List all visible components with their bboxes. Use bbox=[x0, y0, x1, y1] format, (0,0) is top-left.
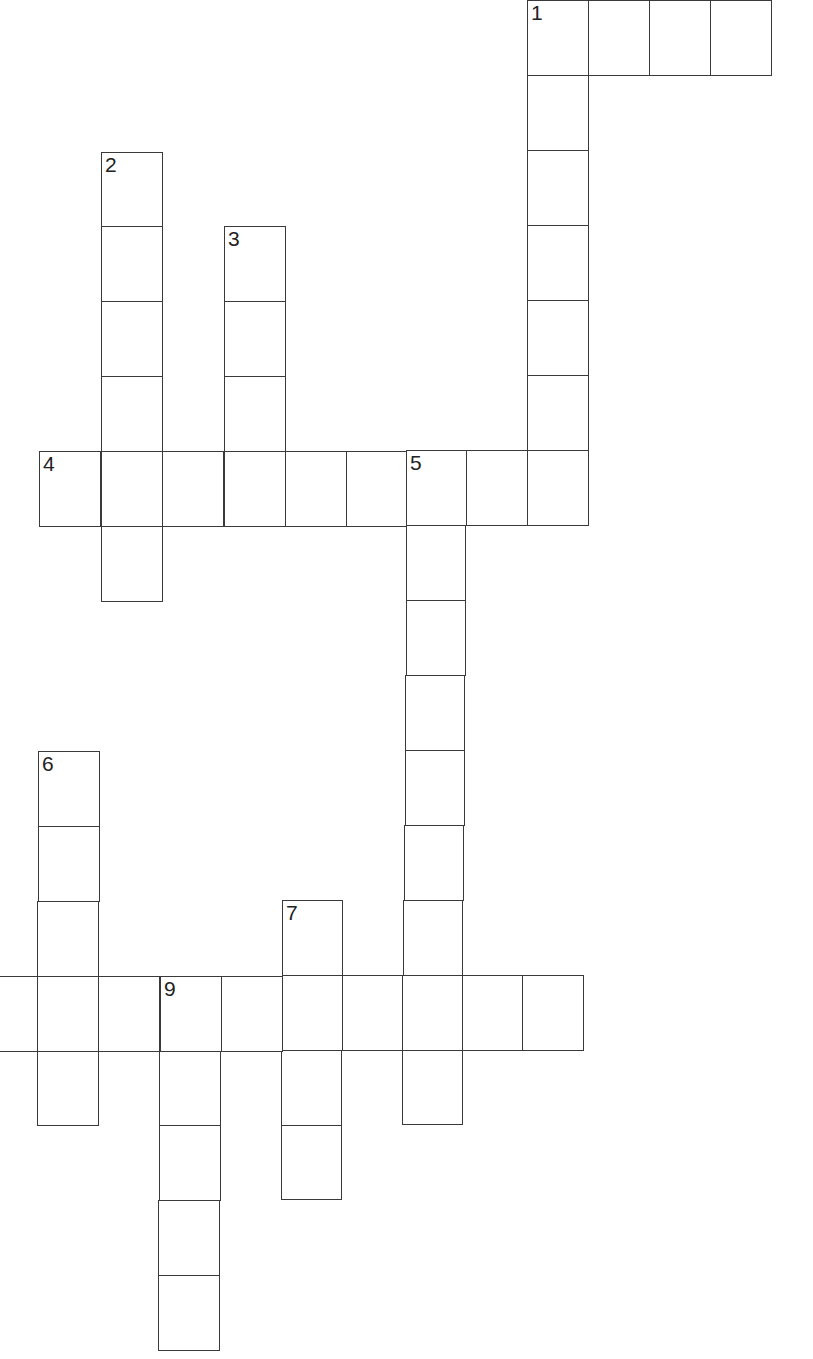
crossword-cell[interactable] bbox=[406, 525, 466, 601]
crossword-cell-3[interactable]: 3 bbox=[224, 226, 286, 302]
clue-number: 5 bbox=[410, 452, 422, 473]
crossword-cell[interactable] bbox=[281, 1125, 342, 1200]
crossword-cell-7[interactable]: 7 bbox=[282, 900, 343, 976]
crossword-cell[interactable] bbox=[527, 225, 589, 301]
clue-number: 1 bbox=[531, 2, 543, 23]
crossword-cell[interactable] bbox=[37, 1051, 99, 1126]
crossword-cell[interactable] bbox=[588, 0, 650, 76]
crossword-cell[interactable] bbox=[466, 450, 528, 526]
crossword-cell[interactable] bbox=[405, 675, 465, 751]
crossword-cell[interactable] bbox=[159, 1051, 221, 1126]
crossword-cell[interactable] bbox=[159, 1125, 221, 1201]
clue-number: 7 bbox=[286, 902, 298, 923]
crossword-cell[interactable] bbox=[527, 150, 589, 226]
crossword-cell-4[interactable]: 4 bbox=[39, 451, 101, 527]
crossword-cell[interactable] bbox=[402, 975, 463, 1051]
crossword-cell[interactable] bbox=[346, 451, 407, 527]
crossword-cell[interactable] bbox=[403, 900, 463, 976]
crossword-cell[interactable] bbox=[101, 525, 163, 602]
crossword-cell[interactable] bbox=[527, 75, 589, 151]
clue-number: 4 bbox=[43, 453, 55, 474]
crossword-grid: 12345679 bbox=[0, 0, 813, 1359]
clue-number: 2 bbox=[105, 154, 117, 175]
crossword-cell[interactable] bbox=[281, 1050, 342, 1126]
crossword-cell[interactable] bbox=[522, 975, 584, 1051]
crossword-cell[interactable] bbox=[158, 1275, 220, 1351]
crossword-cell-5[interactable]: 5 bbox=[406, 450, 467, 526]
crossword-cell[interactable] bbox=[224, 376, 286, 452]
crossword-cell[interactable] bbox=[101, 226, 163, 302]
crossword-cell[interactable] bbox=[37, 901, 99, 977]
crossword-cell[interactable] bbox=[462, 975, 523, 1051]
clue-number: 3 bbox=[228, 228, 240, 249]
crossword-cell[interactable] bbox=[224, 301, 286, 377]
crossword-cell[interactable] bbox=[38, 826, 100, 902]
crossword-cell[interactable] bbox=[224, 451, 286, 527]
crossword-cell[interactable] bbox=[101, 301, 163, 377]
crossword-cell[interactable] bbox=[162, 451, 224, 527]
crossword-cell[interactable] bbox=[221, 976, 283, 1052]
crossword-cell[interactable] bbox=[98, 976, 160, 1052]
crossword-cell[interactable] bbox=[405, 750, 465, 826]
crossword-cell[interactable] bbox=[342, 975, 403, 1051]
crossword-cell-6[interactable]: 6 bbox=[38, 751, 100, 827]
crossword-cell[interactable] bbox=[285, 451, 347, 527]
clue-number: 9 bbox=[164, 978, 176, 999]
crossword-cell[interactable] bbox=[527, 450, 589, 526]
crossword-cell[interactable] bbox=[710, 0, 772, 76]
crossword-cell-1[interactable]: 1 bbox=[527, 0, 589, 76]
crossword-cell[interactable] bbox=[101, 376, 163, 452]
crossword-cell[interactable] bbox=[527, 300, 589, 376]
crossword-cell[interactable] bbox=[37, 976, 99, 1052]
crossword-cell[interactable] bbox=[404, 825, 464, 901]
clue-number: 6 bbox=[42, 753, 54, 774]
crossword-cell[interactable] bbox=[101, 451, 163, 527]
crossword-cell[interactable] bbox=[0, 976, 38, 1052]
crossword-cell[interactable] bbox=[649, 0, 711, 76]
crossword-cell[interactable] bbox=[527, 375, 589, 451]
crossword-cell[interactable] bbox=[282, 975, 343, 1051]
crossword-cell-9[interactable]: 9 bbox=[160, 976, 222, 1052]
crossword-cell-2[interactable]: 2 bbox=[101, 152, 163, 227]
crossword-cell[interactable] bbox=[406, 600, 466, 676]
crossword-cell[interactable] bbox=[402, 1050, 463, 1125]
crossword-cell[interactable] bbox=[158, 1200, 220, 1276]
